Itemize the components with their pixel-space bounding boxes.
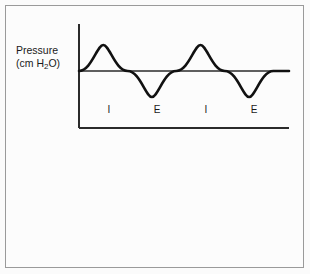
pressure-phase-row: I E I E: [76, 104, 292, 118]
pressure-phase-mark-2: E: [154, 104, 161, 115]
pressure-phase-mark-1: I: [108, 104, 111, 115]
pressure-panel: Pressure (cm H2O) I E I E: [0, 8, 310, 128]
flow-panel: Flow (L/sec) I E I E: [0, 138, 310, 258]
pressure-phase-mark-4: E: [251, 104, 258, 115]
pressure-unit-suffix: O): [48, 57, 60, 69]
pressure-unit-prefix: (cm H: [16, 57, 44, 69]
pressure-phase-mark-3: I: [205, 104, 208, 115]
pressure-axis-label-line1: Pressure: [16, 44, 58, 56]
pressure-axis-label: Pressure (cm H2O): [16, 44, 60, 71]
pressure-axis-label-line2: (cm H2O): [16, 57, 60, 72]
figure-root: Pressure (cm H2O) I E I E Flow (L/sec): [0, 0, 310, 274]
pressure-unit-subscript: 2: [44, 62, 48, 71]
